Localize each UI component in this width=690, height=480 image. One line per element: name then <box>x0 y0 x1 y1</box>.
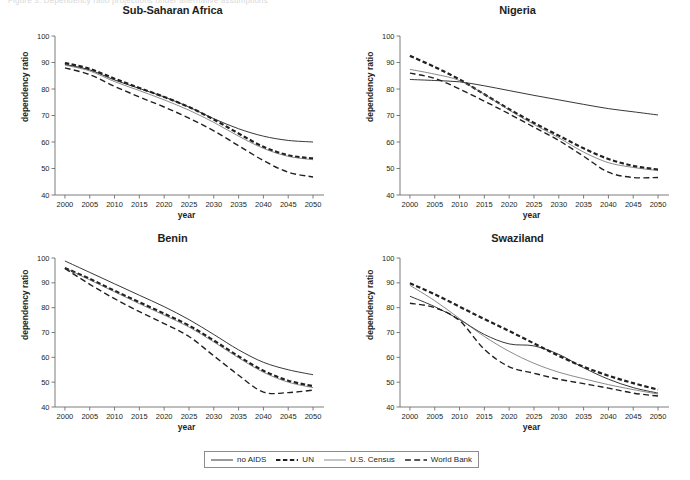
x-tick-label: 2040 <box>600 412 617 421</box>
panel-benin: Benin 4050607080901002000200520102015202… <box>0 232 345 446</box>
series-line-world-bank <box>65 268 313 393</box>
plot-canvas: 4050607080901002000200520102015202020252… <box>0 232 345 446</box>
x-tick-label: 2030 <box>550 200 567 209</box>
series-line-un <box>410 283 658 389</box>
x-tick-label: 2010 <box>451 412 468 421</box>
y-tick-label: 40 <box>386 191 394 200</box>
x-tick-label: 2030 <box>550 412 567 421</box>
x-tick-label: 2020 <box>501 200 518 209</box>
x-tick-label: 2040 <box>600 200 617 209</box>
y-tick-label: 60 <box>386 138 394 147</box>
x-tick-label: 2005 <box>81 412 98 421</box>
plot-canvas: 4050607080901002000200520102015202020252… <box>345 232 690 446</box>
x-tick-label: 2000 <box>57 412 74 421</box>
x-tick-label: 2045 <box>625 412 642 421</box>
y-tick-label: 60 <box>41 353 49 362</box>
panel-title: Nigeria <box>345 4 690 16</box>
y-tick-label: 50 <box>41 164 49 173</box>
y-tick-label: 90 <box>41 278 49 287</box>
x-tick-label: 2025 <box>526 200 543 209</box>
y-tick-label: 50 <box>41 378 49 387</box>
series-line-u-s-census <box>65 65 313 160</box>
y-tick-label: 70 <box>386 328 394 337</box>
y-axis-title: dependency ratio <box>20 270 30 340</box>
panel-title: Swaziland <box>345 232 690 244</box>
x-tick-label: 2005 <box>426 200 443 209</box>
y-tick-label: 100 <box>382 254 395 263</box>
x-tick-label: 2015 <box>131 200 148 209</box>
x-tick-label: 2025 <box>181 412 198 421</box>
x-tick-label: 2035 <box>230 200 247 209</box>
x-tick-label: 2000 <box>402 200 419 209</box>
x-tick-label: 2050 <box>650 200 667 209</box>
y-tick-label: 100 <box>37 254 50 263</box>
x-tick-label: 2000 <box>402 412 419 421</box>
y-tick-label: 80 <box>386 303 394 312</box>
series-line-un <box>410 56 658 170</box>
x-tick-label: 2035 <box>575 200 592 209</box>
y-tick-label: 80 <box>41 303 49 312</box>
series-line-un <box>65 63 313 158</box>
x-axis-title: year <box>0 210 373 220</box>
y-axis-title: dependency ratio <box>20 52 30 122</box>
legend-item-label: U.S. Census <box>350 455 395 464</box>
x-tick-label: 2005 <box>426 412 443 421</box>
y-tick-label: 50 <box>386 164 394 173</box>
series-line-u-s-census <box>65 268 313 388</box>
x-tick-label: 2040 <box>255 200 272 209</box>
y-tick-label: 90 <box>386 278 394 287</box>
legend-swatch-line <box>324 456 346 464</box>
x-axis-title: year <box>345 210 690 220</box>
y-tick-label: 80 <box>386 85 394 94</box>
legend-item-un[interactable]: UN <box>276 455 314 464</box>
y-tick-label: 70 <box>386 111 394 120</box>
x-tick-label: 2020 <box>156 412 173 421</box>
y-tick-label: 70 <box>41 328 49 337</box>
figure-root: Figure 3. Dependency ratio projections u… <box>0 0 690 480</box>
y-tick-label: 50 <box>386 378 394 387</box>
series-line-u-s-census <box>410 285 658 394</box>
x-tick-label: 2035 <box>230 412 247 421</box>
legend-item-label: no AIDS <box>237 455 266 464</box>
x-tick-label: 2015 <box>131 412 148 421</box>
x-tick-label: 2015 <box>476 200 493 209</box>
legend-item-label: UN <box>302 455 314 464</box>
x-tick-label: 2010 <box>106 412 123 421</box>
y-tick-label: 40 <box>386 403 394 412</box>
legend-item-u-s-census[interactable]: U.S. Census <box>324 455 395 464</box>
y-tick-label: 70 <box>41 111 49 120</box>
legend-item-world-bank[interactable]: World Bank <box>405 455 472 464</box>
x-tick-label: 2025 <box>526 412 543 421</box>
x-tick-label: 2030 <box>205 200 222 209</box>
legend-item-label: World Bank <box>431 455 472 464</box>
series-legend: no AIDSUNU.S. CensusWorld Bank <box>204 451 479 468</box>
x-tick-label: 2020 <box>501 412 518 421</box>
x-tick-label: 2050 <box>305 412 322 421</box>
legend-swatch-line <box>211 456 233 464</box>
y-axis-title: dependency ratio <box>365 270 375 340</box>
y-tick-label: 100 <box>37 32 50 41</box>
x-tick-label: 2020 <box>156 200 173 209</box>
y-tick-label: 90 <box>386 58 394 67</box>
panel-title: Sub-Saharan Africa <box>0 4 345 16</box>
x-tick-label: 2040 <box>255 412 272 421</box>
panel-swaziland: Swaziland 405060708090100200020052010201… <box>345 232 690 446</box>
x-tick-label: 2050 <box>650 412 667 421</box>
series-line-world-bank <box>65 68 313 177</box>
series-line-u-s-census <box>410 69 658 170</box>
x-tick-label: 2030 <box>205 412 222 421</box>
x-tick-label: 2035 <box>575 412 592 421</box>
series-line-no-aids <box>65 261 313 375</box>
legend-item-no-aids[interactable]: no AIDS <box>211 455 266 464</box>
y-tick-label: 80 <box>41 85 49 94</box>
x-tick-label: 2045 <box>280 200 297 209</box>
x-tick-label: 2045 <box>625 200 642 209</box>
series-line-world-bank <box>410 303 658 396</box>
plot-canvas: 4050607080901002000200520102015202020252… <box>0 4 345 232</box>
x-axis-title: year <box>345 422 690 432</box>
legend-swatch-line <box>276 456 298 464</box>
series-line-no-aids <box>410 79 658 115</box>
panel-title: Benin <box>0 232 345 244</box>
panel-sub-saharan-africa: Sub-Saharan Africa 405060708090100200020… <box>0 4 345 232</box>
x-tick-label: 2050 <box>305 200 322 209</box>
